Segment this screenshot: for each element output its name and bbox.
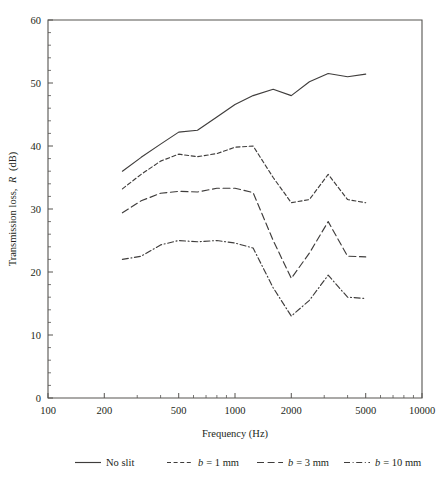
x-tick-label: 5000 [355,405,376,416]
chart-svg: 10020050010002000500010000 0102030405060… [0,0,446,480]
y-axis-tick-labels: 0102030405060 [31,15,42,404]
x-tick-label: 10000 [409,405,435,416]
transmission-loss-chart: 10020050010002000500010000 0102030405060… [0,0,446,480]
x-tick-label: 500 [171,405,187,416]
y-tick-label: 10 [31,330,42,341]
plot-frame [48,20,422,398]
x-tick-label: 100 [40,405,56,416]
y-axis-title-symbol: R [7,176,18,184]
legend-label-3: b= 3 mm [288,457,329,468]
y-axis-title-unit: (dB) [7,151,19,171]
legend-label-4: b= 10 mm [375,457,421,468]
y-tick-label: 40 [31,141,42,152]
series-line-b-1-mm [122,146,365,203]
series-line-b-10-mm [122,241,365,317]
y-tick-label: 50 [31,78,42,89]
svg-text:Transmission loss, R: Transmission loss, R (dB) [7,151,19,266]
y-tick-label: 60 [31,15,42,26]
x-tick-label: 2000 [281,405,302,416]
y-axis-ticks [48,20,53,398]
y-tick-label: 0 [36,393,41,404]
x-axis-ticks [48,393,422,398]
x-axis-title: Frequency (Hz) [202,428,269,440]
legend-label-2: b= 1 mm [198,457,239,468]
chart-legend: No slitb= 1 mmb= 3 mmb= 10 mm [75,457,421,468]
x-axis-tick-labels: 10020050010002000500010000 [40,405,435,416]
y-axis-title: Transmission loss, R (dB) [7,151,19,266]
y-tick-label: 20 [31,267,42,278]
x-tick-label: 1000 [225,405,246,416]
x-tick-label: 200 [96,405,112,416]
legend-label-1: No slit [106,457,134,468]
series-line-no-slit [122,74,365,172]
y-tick-label: 30 [31,204,42,215]
y-axis-title-text: Transmission loss, [7,189,18,267]
series-line-b-3-mm [122,188,365,278]
data-series-group [122,74,365,317]
